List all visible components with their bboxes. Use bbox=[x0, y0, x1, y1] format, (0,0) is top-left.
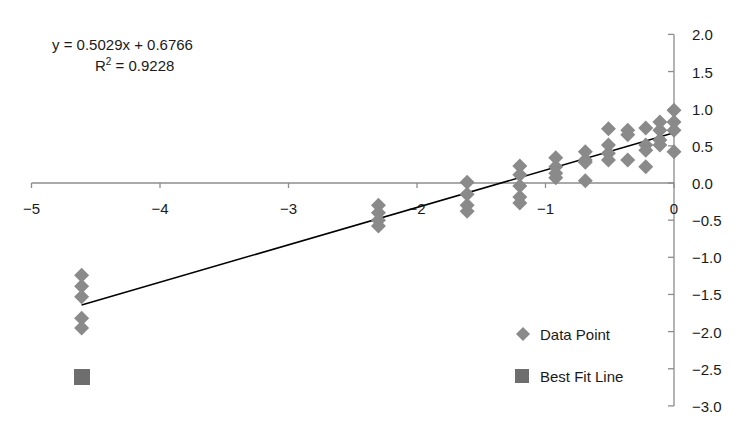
x-tick-label: −1 bbox=[537, 200, 554, 217]
data-point-marker bbox=[620, 152, 635, 167]
y-tick-label: −0.5 bbox=[692, 212, 722, 229]
data-point-marker bbox=[667, 144, 682, 159]
y-tick-label: −1.5 bbox=[692, 286, 722, 303]
y-tick-label: −1.0 bbox=[692, 249, 722, 266]
legend-label-data-point: Data Point bbox=[540, 326, 611, 343]
legend-item-best-fit-line: Best Fit Line bbox=[515, 368, 623, 385]
y-tick-label: 0.0 bbox=[692, 175, 713, 192]
x-tick-label: −5 bbox=[23, 200, 40, 217]
data-point-marker bbox=[601, 121, 616, 136]
x-tick-label: −4 bbox=[151, 200, 168, 217]
legend-item-data-point: Data Point bbox=[516, 326, 611, 343]
data-point-marker bbox=[638, 159, 653, 174]
y-tick-label: 1.0 bbox=[692, 101, 713, 118]
y-tick-label: 0.5 bbox=[692, 138, 713, 155]
data-points bbox=[74, 103, 681, 336]
scatter-plot: −5−4−3−2−102.01.51.00.50.0−0.5−1.0−1.5−2… bbox=[0, 0, 738, 436]
y-tick-label: 2.0 bbox=[692, 26, 713, 43]
y-tick-label: −2.5 bbox=[692, 361, 722, 378]
y-tick-label: 1.5 bbox=[692, 64, 713, 81]
legend-label-best-fit-line: Best Fit Line bbox=[540, 368, 623, 385]
data-point-marker bbox=[74, 289, 89, 304]
y-tick-label: −2.0 bbox=[692, 324, 722, 341]
data-point-marker bbox=[638, 121, 653, 136]
y-tick-label: −3.0 bbox=[692, 398, 722, 415]
data-point-marker bbox=[667, 123, 682, 138]
legacy-fit-marker-icon bbox=[74, 369, 90, 385]
diamond-marker-icon bbox=[516, 327, 530, 341]
x-tick-label: −3 bbox=[280, 200, 297, 217]
data-point-marker bbox=[578, 173, 593, 188]
square-marker-icon bbox=[515, 369, 529, 383]
data-point-marker bbox=[74, 320, 89, 335]
legend: Data Point Best Fit Line bbox=[74, 326, 623, 385]
x-tick-label: 0 bbox=[670, 200, 678, 217]
